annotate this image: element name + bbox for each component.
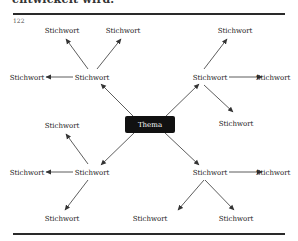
leaf-bottom-right: Stichwort [219,215,254,223]
arrow-center-to-hub-top-right [164,84,199,118]
leaf-right-lower: Stichwort [256,169,291,177]
hub-top-left-arrows [46,39,121,77]
hub-bottom-right-arrows [178,172,262,210]
center-node: Thema [125,116,175,133]
hub-top-left: Stichwort [75,74,110,82]
hub-bottom-right: Stichwort [193,169,228,177]
leaf-right-middle: Stichwort [219,120,254,128]
leaf-bottom-middle: Stichwort [133,215,168,223]
leaf-right-upper: Stichwort [256,74,291,82]
center-node-label: Thema [138,121,162,129]
leaf-top-right-1: Stichwort [218,27,253,35]
arrow-center-to-hub-bottom-left [101,132,135,165]
hub-top-right: Stichwort [193,74,228,82]
arrow-center-to-hub-top-left [101,84,135,118]
bottom-rule [13,233,285,235]
mind-map-diagram: Thema Stichwort Stichwort Stichwort Stic… [0,0,298,241]
leaf-top-left-1: Stichwort [45,27,80,35]
leaf-left-upper: Stichwort [10,74,45,82]
leaf-left-lower: Stichwort [10,169,45,177]
leaf-bottom-left: Stichwort [45,215,80,223]
leaf-left-middle: Stichwort [45,122,80,130]
hub-bottom-left: Stichwort [75,169,110,177]
arrow-center-to-hub-bottom-right [164,132,199,165]
leaf-top-left-2: Stichwort [106,27,141,35]
